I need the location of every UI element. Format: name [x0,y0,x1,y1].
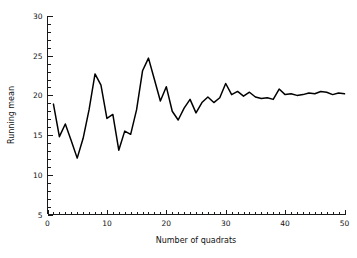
x-tick-label: 10 [102,219,112,228]
y-axis-tick-labels: 51015202530 [33,12,43,220]
x-tick-label: 20 [162,219,172,228]
x-tick-label: 50 [340,219,350,228]
y-tick-label: 5 [38,211,43,220]
chart-container: 51015202530 01020304050 Number of quadra… [0,0,357,258]
y-tick-label: 20 [33,91,43,100]
x-axis-ticks [49,210,346,215]
y-tick-label: 15 [33,131,43,140]
running-mean-line-chart: 51015202530 01020304050 Number of quadra… [0,0,357,258]
x-tick-label: 0 [45,219,50,228]
y-tick-label: 30 [33,12,43,21]
x-tick-label: 40 [280,219,290,228]
running-mean-series-line [53,58,344,158]
x-axis-title: Number of quadrats [156,236,237,245]
y-tick-label: 25 [33,52,43,61]
y-tick-label: 10 [33,171,43,180]
x-tick-label: 30 [221,219,231,228]
y-axis-ticks [48,17,53,216]
x-axis-tick-labels: 01020304050 [45,219,349,228]
y-axis-title: Running mean [7,86,16,144]
